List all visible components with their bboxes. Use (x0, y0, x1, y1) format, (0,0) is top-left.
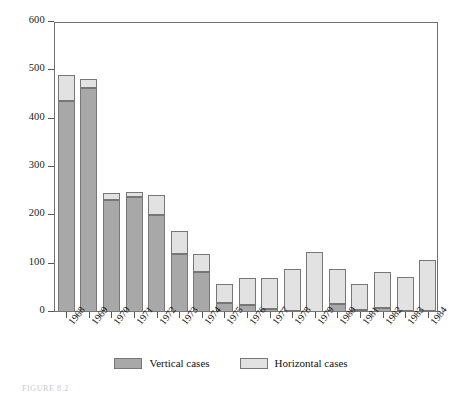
bar-column[interactable] (148, 22, 165, 312)
bar-column[interactable] (397, 22, 414, 312)
bar-column[interactable] (126, 22, 143, 312)
bar-segment-vertical[interactable] (171, 254, 188, 312)
bar-column[interactable] (216, 22, 233, 312)
bar-segment-horizontal[interactable] (103, 193, 120, 200)
bar-column[interactable] (58, 22, 75, 312)
y-tick-label: 300 (29, 159, 45, 170)
bar-column[interactable] (329, 22, 346, 312)
y-tick-label: 500 (29, 62, 45, 73)
bar-segment-horizontal[interactable] (80, 79, 97, 88)
bar-segment-horizontal[interactable] (397, 277, 414, 310)
figure-caption: FIGURE 8.2 (22, 384, 69, 393)
legend-swatch-vertical-icon (114, 358, 142, 369)
bar-segment-horizontal[interactable] (148, 195, 165, 216)
bar-segment-vertical[interactable] (80, 88, 97, 312)
bar-segment-horizontal[interactable] (351, 284, 368, 310)
bar-column[interactable] (80, 22, 97, 312)
bar-column[interactable] (261, 22, 278, 312)
bar-segment-horizontal[interactable] (419, 260, 436, 310)
bar-segment-vertical[interactable] (58, 101, 75, 312)
bar-segment-horizontal[interactable] (58, 75, 75, 101)
bar-segment-horizontal[interactable] (193, 254, 210, 272)
y-axis: 0100200300400500600 (0, 0, 54, 340)
bar-segment-vertical[interactable] (193, 272, 210, 312)
bar-segment-horizontal[interactable] (216, 284, 233, 303)
y-tick-label: 200 (29, 207, 45, 218)
bar-segment-horizontal[interactable] (284, 269, 301, 310)
bar-column[interactable] (419, 22, 436, 312)
bar-column[interactable] (103, 22, 120, 312)
bar-column[interactable] (239, 22, 256, 312)
y-tick-label: 600 (29, 14, 45, 25)
x-tick-mark (383, 312, 384, 318)
bar-segment-horizontal[interactable] (329, 269, 346, 304)
bar-column[interactable] (193, 22, 210, 312)
bar-column[interactable] (351, 22, 368, 312)
bar-column[interactable] (374, 22, 391, 312)
bars-layer (54, 22, 438, 312)
x-axis: 1968196919701971197219731974197519761977… (54, 312, 438, 362)
bar-segment-vertical[interactable] (126, 197, 143, 312)
x-tick-mark (157, 312, 158, 318)
bar-segment-horizontal[interactable] (171, 231, 188, 254)
legend-label-horizontal: Horizontal cases (275, 357, 348, 369)
legend-swatch-horizontal-icon (240, 358, 268, 369)
y-tick-label: 100 (29, 256, 45, 267)
y-tick-label: 0 (40, 304, 45, 315)
x-tick-mark (270, 312, 271, 318)
legend-item-horizontal: Horizontal cases (240, 357, 348, 369)
legend-item-vertical: Vertical cases (114, 357, 209, 369)
bar-segment-horizontal[interactable] (239, 278, 256, 306)
bar-segment-horizontal[interactable] (374, 272, 391, 308)
bar-segment-horizontal[interactable] (126, 192, 143, 197)
bar-column[interactable] (284, 22, 301, 312)
y-tick-label: 400 (29, 111, 45, 122)
figure-container: 0100200300400500600 19681969197019711972… (0, 0, 462, 395)
bar-segment-horizontal[interactable] (261, 278, 278, 309)
bar-column[interactable] (306, 22, 323, 312)
bar-segment-horizontal[interactable] (306, 252, 323, 312)
bar-segment-vertical[interactable] (103, 200, 120, 312)
bar-segment-vertical[interactable] (148, 215, 165, 312)
chart-legend: Vertical cases Horizontal cases (0, 357, 462, 369)
legend-label-vertical: Vertical cases (149, 357, 209, 369)
bar-column[interactable] (171, 22, 188, 312)
